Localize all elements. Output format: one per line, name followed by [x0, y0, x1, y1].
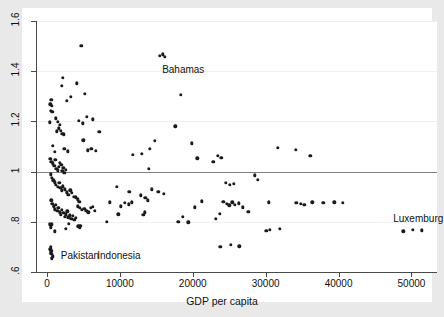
- data-point: [85, 115, 88, 118]
- reference-line: [36, 172, 437, 173]
- x-tick: [266, 272, 267, 277]
- data-point: [105, 220, 108, 223]
- data-point: [79, 224, 82, 227]
- data-point: [193, 206, 196, 209]
- data-point: [420, 229, 423, 232]
- data-point: [187, 221, 190, 224]
- data-point: [139, 194, 142, 197]
- data-point: [108, 201, 111, 204]
- data-point: [53, 230, 56, 233]
- data-point: [153, 139, 156, 142]
- data-point: [157, 190, 160, 193]
- data-point: [62, 133, 65, 136]
- annotation-label: Bahamas: [162, 64, 204, 75]
- y-tick-label: 1.2: [10, 107, 21, 133]
- data-point: [332, 201, 335, 204]
- y-tick: [31, 121, 36, 122]
- data-point: [211, 160, 214, 163]
- data-point: [131, 153, 134, 156]
- data-point: [237, 202, 240, 205]
- data-point: [55, 130, 58, 133]
- data-point: [256, 178, 259, 181]
- scatter-plot-area: [36, 21, 437, 272]
- data-point: [81, 122, 84, 125]
- gridline: [36, 71, 437, 72]
- data-point: [67, 222, 70, 225]
- data-point: [200, 200, 203, 203]
- data-point: [87, 211, 90, 214]
- data-point: [90, 147, 93, 150]
- data-point: [54, 158, 57, 161]
- data-point: [51, 110, 54, 113]
- data-point: [224, 181, 227, 184]
- data-point: [78, 200, 81, 203]
- data-point: [98, 130, 101, 133]
- x-tick-label: 30000: [252, 278, 280, 289]
- data-point: [162, 192, 165, 195]
- gridline: [36, 222, 437, 223]
- x-tick-label: 10000: [106, 278, 134, 289]
- data-point: [181, 215, 184, 218]
- data-point: [117, 213, 120, 216]
- chart-figure: .6.811.21.41.6 0100002000030000400005000…: [0, 0, 444, 317]
- x-tick-label: 0: [44, 278, 50, 289]
- data-point: [50, 249, 53, 252]
- gridline: [36, 121, 437, 122]
- data-point: [50, 223, 53, 226]
- annotation-label: Luxemburg: [393, 213, 443, 224]
- y-tick: [31, 172, 36, 173]
- x-tick: [193, 272, 194, 277]
- data-point: [60, 84, 63, 87]
- x-axis-title: GDP per capita: [0, 295, 444, 307]
- data-point: [150, 187, 153, 190]
- data-point: [311, 201, 314, 204]
- data-point: [411, 228, 414, 231]
- data-point: [53, 150, 56, 153]
- data-point: [64, 227, 67, 230]
- data-point: [219, 156, 222, 159]
- x-tick: [47, 272, 48, 277]
- data-point: [146, 199, 149, 202]
- data-point: [80, 44, 83, 47]
- data-point: [268, 228, 271, 231]
- data-point: [218, 212, 221, 215]
- y-tick-label: 1: [10, 157, 21, 183]
- data-point: [303, 203, 306, 206]
- y-tick: [31, 21, 36, 22]
- data-point: [140, 152, 143, 155]
- data-point: [148, 147, 151, 150]
- data-point: [74, 216, 77, 219]
- data-point: [128, 190, 131, 193]
- data-point: [174, 125, 177, 128]
- data-point: [66, 210, 69, 213]
- y-tick: [31, 71, 36, 72]
- data-point: [402, 230, 405, 233]
- x-tick: [120, 272, 121, 277]
- data-point: [190, 142, 193, 145]
- x-tick-label: 50000: [398, 278, 426, 289]
- data-point: [147, 167, 150, 170]
- data-point: [69, 95, 72, 98]
- annotation-label: Indonesia: [97, 250, 140, 261]
- data-point: [115, 185, 118, 188]
- y-tick-label: .6: [10, 258, 21, 284]
- data-point: [75, 82, 78, 85]
- x-tick: [411, 272, 412, 277]
- data-point: [51, 255, 54, 258]
- data-point: [119, 205, 122, 208]
- x-tick: [339, 272, 340, 277]
- y-tick: [31, 272, 36, 273]
- data-point: [176, 220, 179, 223]
- data-point: [195, 157, 198, 160]
- data-point: [50, 98, 53, 101]
- data-point: [219, 245, 222, 248]
- data-point: [61, 76, 64, 79]
- data-point: [141, 213, 144, 216]
- x-tick-label: 40000: [325, 278, 353, 289]
- y-tick-label: 1.6: [10, 7, 21, 33]
- data-point: [49, 226, 52, 229]
- data-point: [58, 181, 61, 184]
- data-point: [63, 171, 66, 174]
- annotation-label: Pakistan: [61, 250, 99, 261]
- data-point: [253, 174, 256, 177]
